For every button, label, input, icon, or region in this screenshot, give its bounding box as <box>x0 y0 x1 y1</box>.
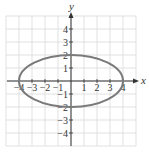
x-tick-label: 2 <box>95 82 100 93</box>
ellipse-graph: xy−4−3−2−11234−4−3−2−11234 <box>0 0 149 156</box>
y-tick-label: 4 <box>63 24 68 35</box>
y-tick-label: −1 <box>57 89 68 100</box>
y-tick-label: −3 <box>57 115 68 126</box>
y-axis-label: y <box>68 0 74 12</box>
x-tick-label: −2 <box>40 82 51 93</box>
y-tick-label: 1 <box>63 63 68 74</box>
y-tick-label: 3 <box>63 37 68 48</box>
x-axis-label: x <box>140 74 146 86</box>
y-tick-label: −4 <box>57 128 68 139</box>
y-axis-arrow-icon <box>69 12 74 18</box>
x-tick-label: −3 <box>27 82 38 93</box>
x-tick-label: 3 <box>108 82 113 93</box>
x-tick-label: 1 <box>82 82 87 93</box>
